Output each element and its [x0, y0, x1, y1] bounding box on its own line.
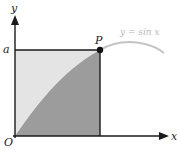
point-p: [97, 47, 103, 53]
a-label: a: [3, 43, 10, 56]
y-axis-label: y: [10, 2, 18, 15]
sine-curve: [100, 42, 164, 53]
y-axis-arrow-icon: [11, 15, 19, 25]
x-axis-arrow-icon: [159, 132, 169, 140]
curve-label: y = sin x: [119, 27, 160, 37]
x-axis-label: x: [171, 130, 177, 143]
origin-label: O: [4, 136, 13, 149]
sin-diagram: y x O a P y = sin x: [0, 0, 177, 151]
point-p-label: P: [94, 34, 103, 47]
